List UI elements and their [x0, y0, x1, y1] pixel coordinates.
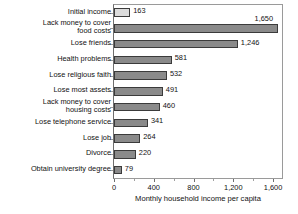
category-label: Initial income: [0, 8, 111, 16]
value-label: 163: [133, 6, 145, 15]
value-label: 341: [151, 116, 163, 125]
value-label: 581: [175, 53, 187, 62]
bar-row: Lose friends1,246: [0, 37, 298, 53]
x-axis-minor-tick: [134, 179, 135, 181]
value-label: 220: [139, 148, 151, 157]
x-axis-tick: [194, 179, 195, 182]
bar-row: Lack money to cover food costs1,650: [0, 21, 298, 37]
bar[interactable]: [114, 103, 160, 111]
value-label: 1,650: [255, 14, 274, 23]
bar[interactable]: [114, 8, 130, 16]
x-axis-minor-tick: [213, 179, 214, 181]
x-axis-title: Monthly household income per capita: [113, 194, 283, 203]
bar[interactable]: [114, 166, 122, 174]
x-axis-tick: [233, 179, 234, 182]
value-label: 491: [166, 85, 178, 94]
category-label: Lack money to cover housing costs: [0, 98, 111, 114]
category-label: Lose most assets: [0, 86, 111, 94]
value-label: 532: [170, 69, 182, 78]
category-label: Lose job: [0, 134, 111, 142]
value-label: 264: [143, 132, 155, 141]
value-label: 1,246: [241, 38, 260, 47]
value-label: 460: [163, 101, 175, 110]
bar[interactable]: [114, 56, 172, 64]
bar-row: Divorce220: [0, 147, 298, 163]
x-axis-tick: [154, 179, 155, 182]
bar-row: Lose job264: [0, 131, 298, 147]
bar-row: Lose telephone service341: [0, 115, 298, 131]
x-axis-tick: [273, 179, 274, 182]
category-label: Obtain university degree: [0, 165, 111, 173]
bar[interactable]: [114, 134, 140, 142]
bar[interactable]: [114, 87, 163, 95]
x-axis-tick-label: 1,200: [224, 183, 243, 192]
category-label: Health problems: [0, 55, 111, 63]
category-label: Divorce: [0, 149, 111, 157]
category-label: Lose telephone service: [0, 118, 111, 126]
bar[interactable]: [114, 119, 148, 127]
bar[interactable]: [114, 40, 238, 48]
bar[interactable]: [114, 150, 136, 158]
value-label: 79: [125, 164, 133, 173]
bar-row: Obtain university degree79: [0, 163, 298, 179]
bar-row: Health problems581: [0, 52, 298, 68]
bar-row: Lack money to cover housing costs460: [0, 100, 298, 116]
x-axis-tick-label: 400: [148, 183, 160, 192]
x-axis-minor-tick: [253, 179, 254, 181]
bar[interactable]: [114, 71, 167, 79]
x-axis-minor-tick: [174, 179, 175, 181]
bar[interactable]: [114, 24, 278, 32]
category-label: Lose religious faith: [0, 71, 111, 79]
x-axis-tick: [114, 179, 115, 182]
category-label: Lose friends: [0, 39, 111, 47]
bar-chart: Initial income163Lack money to cover foo…: [0, 0, 298, 214]
x-axis-tick-label: 0: [112, 183, 116, 192]
category-label: Lack money to cover food costs: [0, 19, 111, 35]
x-axis-tick-label: 800: [187, 183, 199, 192]
bar-row: Lose religious faith532: [0, 68, 298, 84]
x-axis-tick-label: 1,600: [264, 183, 283, 192]
